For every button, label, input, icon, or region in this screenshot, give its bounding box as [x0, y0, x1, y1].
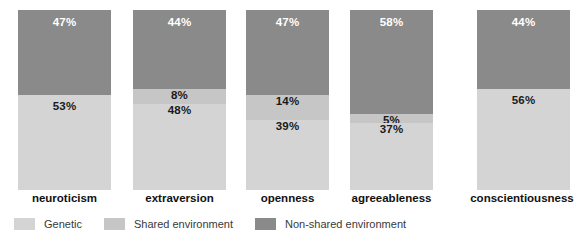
- segment-non-shared-environment[interactable]: 47%: [18, 10, 111, 95]
- segment-shared-environment[interactable]: 14%: [246, 95, 329, 120]
- legend-item-non-shared-environment[interactable]: Non-shared environment: [255, 218, 406, 230]
- category-label-extraversion: extraversion: [133, 193, 226, 205]
- segment-value-label: 39%: [246, 121, 329, 133]
- legend-swatch-icon: [14, 218, 35, 230]
- segment-value-label: 8%: [133, 90, 226, 102]
- legend-swatch-icon: [104, 218, 125, 230]
- segment-value-label: 56%: [477, 95, 570, 107]
- category-label-neuroticism: neuroticism: [18, 193, 111, 205]
- legend-item-genetic[interactable]: Genetic: [14, 218, 82, 230]
- segment-genetic[interactable]: 56%: [477, 89, 570, 190]
- bar-neuroticism[interactable]: 47% 53%: [18, 10, 111, 190]
- segment-value-label: 14%: [246, 96, 329, 108]
- category-label-conscientiousness: conscientiousness: [466, 193, 578, 205]
- segment-value-label: 53%: [18, 101, 111, 113]
- segment-shared-environment[interactable]: 5%: [350, 114, 433, 123]
- bar-conscientiousness[interactable]: 44% 56%: [477, 10, 570, 190]
- segment-value-label: 47%: [246, 17, 329, 29]
- legend-label: Non-shared environment: [285, 219, 406, 230]
- category-label-openness: openness: [246, 193, 329, 205]
- segment-value-label: 37%: [350, 124, 433, 136]
- stacked-bar-chart: 47% 53% neuroticism 44% 8% 48% extravers…: [0, 0, 578, 246]
- segment-shared-environment[interactable]: 8%: [133, 89, 226, 103]
- legend-label: Shared environment: [134, 219, 233, 230]
- segment-genetic[interactable]: 37%: [350, 123, 433, 190]
- category-label-agreeableness: agreeableness: [350, 193, 433, 205]
- legend-label: Genetic: [44, 219, 82, 230]
- legend-swatch-icon: [255, 218, 276, 230]
- segment-value-label: 47%: [18, 17, 111, 29]
- bar-extraversion[interactable]: 44% 8% 48%: [133, 10, 226, 190]
- segment-value-label: 44%: [477, 17, 570, 29]
- segment-non-shared-environment[interactable]: 47%: [246, 10, 329, 95]
- segment-non-shared-environment[interactable]: 44%: [477, 10, 570, 89]
- segment-genetic[interactable]: 53%: [18, 95, 111, 190]
- segment-non-shared-environment[interactable]: 44%: [133, 10, 226, 89]
- bar-openness[interactable]: 47% 14% 39%: [246, 10, 329, 190]
- legend-item-shared-environment[interactable]: Shared environment: [104, 218, 233, 230]
- segment-value-label: 48%: [133, 105, 226, 117]
- segment-value-label: 58%: [350, 17, 433, 29]
- bar-agreeableness[interactable]: 58% 5% 37%: [350, 10, 433, 190]
- plot-area: 47% 53% neuroticism 44% 8% 48% extravers…: [0, 0, 578, 190]
- chart-legend: Genetic Shared environment Non-shared en…: [14, 218, 428, 230]
- segment-genetic[interactable]: 48%: [133, 104, 226, 190]
- segment-genetic[interactable]: 39%: [246, 120, 329, 190]
- segment-value-label: 44%: [133, 17, 226, 29]
- segment-non-shared-environment[interactable]: 58%: [350, 10, 433, 114]
